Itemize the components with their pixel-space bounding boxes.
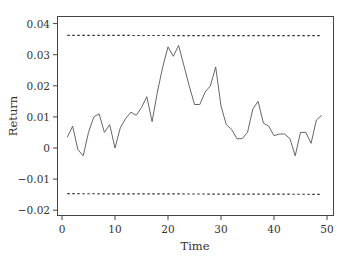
y-tick-label: −0.01 [18,173,50,185]
y-tick-label: 0.01 [27,111,50,123]
y-tick-label: 0.03 [27,49,50,61]
y-tick-label: −0.02 [18,204,50,216]
x-tick-label: 50 [320,223,333,235]
line-chart: −0.02−0.0100.010.020.030.04 01020304050 … [0,0,346,261]
x-axis-label: Time [180,239,209,253]
y-tick-label: 0 [43,142,50,154]
y-tick-label: 0.04 [27,18,51,30]
control-limit-line [67,194,321,195]
x-tick-label: 20 [161,223,174,235]
y-axis-label: Return [6,95,20,136]
y-axis: −0.02−0.0100.010.020.030.04 [18,18,58,217]
return-series-line [67,45,321,155]
x-tick-label: 10 [108,223,121,235]
series-layer [67,35,321,194]
x-axis: 01020304050 [59,216,334,236]
plot-frame [58,17,334,216]
x-tick-label: 30 [214,223,227,235]
y-tick-label: 0.02 [27,80,50,92]
x-tick-label: 0 [59,223,66,235]
x-tick-label: 40 [267,223,280,235]
